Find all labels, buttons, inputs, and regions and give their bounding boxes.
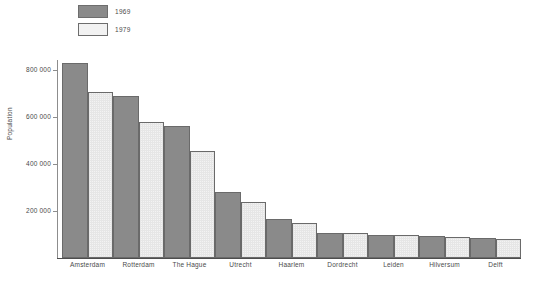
bar-group-amsterdam [62, 60, 113, 258]
plot-area: 800 000 600 000 400 000 200 000 [57, 60, 521, 259]
y-tick-400000 [53, 164, 58, 165]
bar-haarlem-1969 [266, 219, 292, 258]
bar-utrecht-1969 [215, 192, 241, 258]
x-label-delft: Delft [470, 261, 521, 268]
bar-utrecht-1979 [241, 202, 267, 258]
bar-amsterdam-1969 [62, 63, 88, 258]
y-tick-label-600000: 600 000 [26, 113, 51, 120]
bar-series-container [62, 60, 521, 258]
x-axis-line [57, 258, 521, 259]
bar-group-delft [470, 60, 521, 258]
bar-group-haarlem [266, 60, 317, 258]
bar-rotterdam-1979 [139, 122, 165, 258]
y-tick-600000 [53, 117, 58, 118]
x-label-leiden: Leiden [368, 261, 419, 268]
x-axis-category-labels: AmsterdamRotterdamThe HagueUtrechtHaarle… [62, 261, 521, 268]
chart-legend: 1969 1979 [78, 4, 131, 40]
bar-leiden-1969 [368, 235, 394, 258]
x-label-amsterdam: Amsterdam [62, 261, 113, 268]
population-bar-chart-figure: 1969 1979 Population 800 000 600 000 400… [0, 0, 535, 297]
bar-rotterdam-1969 [113, 96, 139, 258]
bar-delft-1969 [470, 238, 496, 258]
legend-label-1969: 1969 [115, 8, 131, 15]
bar-group-rotterdam [113, 60, 164, 258]
bar-hilversum-1979 [445, 237, 471, 258]
bar-group-hilversum [419, 60, 470, 258]
bar-leiden-1979 [394, 235, 420, 258]
bar-dordrecht-1969 [317, 233, 343, 258]
y-tick-200000 [53, 211, 58, 212]
x-label-utrecht: Utrecht [215, 261, 266, 268]
bar-dordrecht-1979 [343, 233, 369, 258]
bar-hilversum-1969 [419, 236, 445, 258]
legend-item-1979: 1979 [78, 22, 131, 36]
y-axis-line [57, 60, 58, 259]
bar-group-leiden [368, 60, 419, 258]
legend-swatch-1969-icon [78, 5, 108, 18]
legend-item-1969: 1969 [78, 4, 131, 18]
bar-group-the-hague [164, 60, 215, 258]
x-label-haarlem: Haarlem [266, 261, 317, 268]
bar-haarlem-1979 [292, 223, 318, 258]
x-label-the-hague: The Hague [164, 261, 215, 268]
bar-group-dordrecht [317, 60, 368, 258]
bar-group-utrecht [215, 60, 266, 258]
bar-amsterdam-1979 [88, 92, 114, 258]
legend-swatch-1979-icon [78, 23, 108, 36]
y-tick-label-200000: 200 000 [26, 207, 51, 214]
bar-the-hague-1979 [190, 151, 216, 258]
x-label-dordrecht: Dordrecht [317, 261, 368, 268]
y-tick-label-800000: 800 000 [26, 66, 51, 73]
bar-delft-1979 [496, 239, 522, 258]
y-tick-800000 [53, 70, 58, 71]
bar-the-hague-1969 [164, 126, 190, 258]
x-label-hilversum: Hilversum [419, 261, 470, 268]
y-axis-title: Population [6, 107, 13, 140]
y-tick-label-400000: 400 000 [26, 160, 51, 167]
legend-label-1979: 1979 [115, 26, 131, 33]
x-label-rotterdam: Rotterdam [113, 261, 164, 268]
